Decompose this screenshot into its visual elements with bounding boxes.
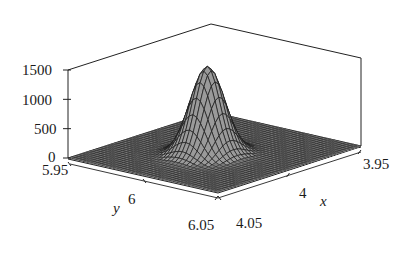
y-tick-6.05: 6.05: [188, 218, 214, 233]
z-tick-1000: 1000: [22, 93, 52, 108]
x-tick-3.95: 3.95: [363, 157, 389, 172]
z-tick-500: 500: [34, 122, 57, 137]
z-tick-1500: 1500: [22, 63, 52, 78]
y-tick-5.95: 5.95: [42, 163, 68, 178]
x-tick-4: 4: [299, 186, 307, 201]
x-tick-4.05: 4.05: [236, 216, 262, 231]
x-axis-label: x: [320, 194, 327, 209]
surface-mesh: [68, 66, 361, 192]
y-axis-label: y: [113, 201, 120, 216]
y-tick-6: 6: [128, 192, 136, 207]
